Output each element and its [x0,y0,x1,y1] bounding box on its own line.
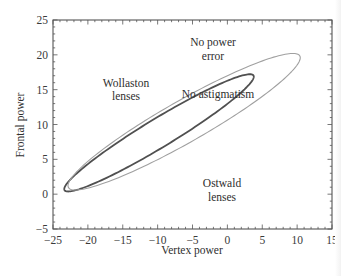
y-tick-labels: −50510152025 [36,14,49,235]
x-tick-label: 10 [291,234,303,246]
plot-frame [53,20,332,229]
y-tick-label: −5 [36,223,48,235]
y-tick-label: 20 [37,49,49,61]
y-tick-label: 5 [42,153,48,165]
y-axis-label: Frontal power [14,92,27,157]
annotation-no-power-error-line1: No power [190,36,236,49]
annotation-no-astigmatism: No astigmatism [182,88,255,101]
annotation-ostwald-line2: lenses [208,191,237,203]
x-tick-label: 5 [259,234,265,246]
plot-border [53,20,332,229]
chart: −25−20−15−10−5051015 −50510152025 Vertex… [0,0,341,276]
y-tick-label: 25 [37,14,49,26]
annotation-ostwald-lenses: Ostwald lenses [203,177,242,203]
page-edge-shadow [335,0,341,276]
y-tick-label: 0 [42,188,48,200]
annotation-wollaston-line2: lenses [112,90,141,102]
annotation-ostwald-line1: Ostwald [203,177,242,189]
ellipse-no-power-error [68,53,300,190]
x-tick-label: 0 [225,234,231,246]
annotation-no-power-error: No power error [190,36,236,62]
annotation-no-power-error-line2: error [202,50,225,62]
y-tick-label: 10 [37,119,49,131]
x-tick-label: −15 [114,234,132,246]
annotation-no-astigmatism-text: No astigmatism [182,88,255,101]
x-tick-label: −20 [79,234,97,246]
axis-ticks [53,20,332,229]
y-tick-label: 15 [37,84,49,96]
x-tick-label: −25 [44,234,62,246]
annotation-wollaston-line1: Wollaston [103,77,150,89]
data-series [64,53,300,191]
annotation-wollaston-lenses: Wollaston lenses [103,77,150,102]
x-axis-label: Vertex power [161,244,223,257]
